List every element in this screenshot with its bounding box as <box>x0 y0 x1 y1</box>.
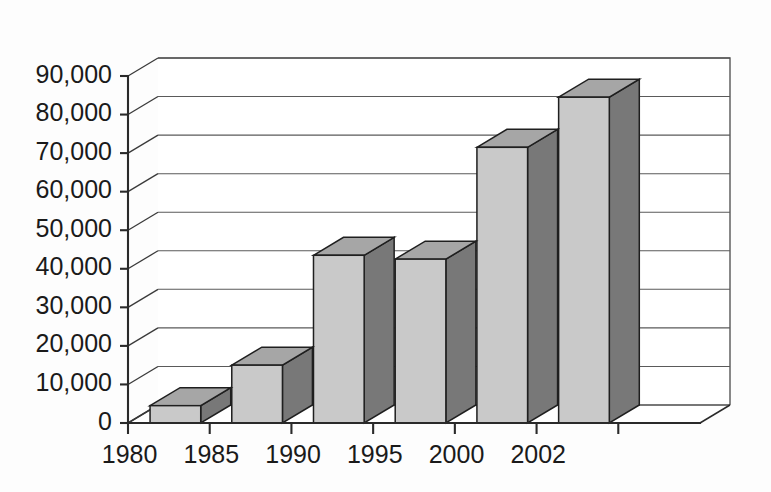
bar-column <box>477 129 558 423</box>
x-axis-tick-label: 2000 <box>429 440 485 468</box>
y-axis-tick-label: 40,000 <box>36 252 112 280</box>
bar-front-face <box>395 259 446 423</box>
bar-side-face <box>364 237 394 423</box>
y-axis-tick-label: 60,000 <box>36 175 112 203</box>
y-axis-tick-label: 0 <box>98 407 112 435</box>
bar-side-face <box>609 79 639 423</box>
y-axis-tick-label: 80,000 <box>36 98 112 126</box>
chart-container: 010,00020,00030,00040,00050,00060,00070,… <box>0 0 771 492</box>
y-axis-tick-label: 10,000 <box>36 368 112 396</box>
x-axis-tick-label: 1980 <box>102 440 158 468</box>
bar-side-face <box>446 241 476 423</box>
bar-front-face <box>559 97 610 423</box>
bar-front-face <box>150 406 201 423</box>
bar-column <box>313 237 394 423</box>
bar-side-face <box>528 129 558 423</box>
y-axis-tick-label: 50,000 <box>36 214 112 242</box>
y-axis-tick-label: 70,000 <box>36 137 112 165</box>
y-axis-tick-label: 30,000 <box>36 291 112 319</box>
bar-column <box>395 241 476 423</box>
bar-front-face <box>477 147 528 423</box>
x-axis-tick-label: 1985 <box>184 440 240 468</box>
y-axis-tick-label: 20,000 <box>36 329 112 357</box>
bar-chart-3d: 010,00020,00030,00040,00050,00060,00070,… <box>0 0 771 492</box>
x-axis-tick-label: 1995 <box>347 440 403 468</box>
y-axis-tick-label: 90,000 <box>36 60 112 88</box>
x-axis-tick-label: 1990 <box>265 440 321 468</box>
bar-column <box>559 79 640 423</box>
bar-column <box>232 347 313 423</box>
bar-front-face <box>313 255 364 423</box>
x-axis-tick-label: 2002 <box>510 440 566 468</box>
bar-front-face <box>232 365 283 423</box>
